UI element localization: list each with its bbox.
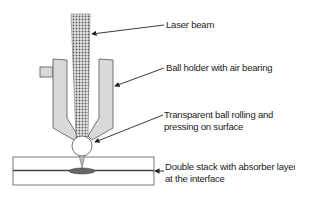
label-laser-beam: Laser beam <box>166 19 214 30</box>
arrow-ball-holder <box>115 68 164 86</box>
arrow-laser-beam <box>92 25 164 34</box>
transparent-ball <box>72 136 92 156</box>
laser-beam <box>71 14 90 137</box>
ball-holder-right <box>88 59 113 140</box>
label-stack-line1: Double stack with absorber layer <box>165 161 295 172</box>
label-ball-holder: Ball holder with air bearing <box>166 62 272 73</box>
label-stack-line2: at the interface <box>165 173 225 184</box>
melt-zone <box>69 168 95 174</box>
air-inlet-tab <box>40 67 53 77</box>
label-ball-line1: Transparent ball rolling and <box>164 109 273 120</box>
label-ball-line2: pressing on surface <box>164 121 243 132</box>
